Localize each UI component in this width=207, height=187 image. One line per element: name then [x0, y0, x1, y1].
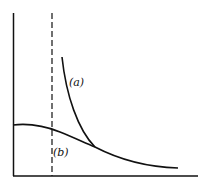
curve-b [13, 124, 178, 168]
label-b: (b) [53, 146, 69, 159]
label-a: (a) [69, 76, 84, 89]
curve-a [62, 57, 95, 147]
diagram-svg [0, 0, 207, 187]
